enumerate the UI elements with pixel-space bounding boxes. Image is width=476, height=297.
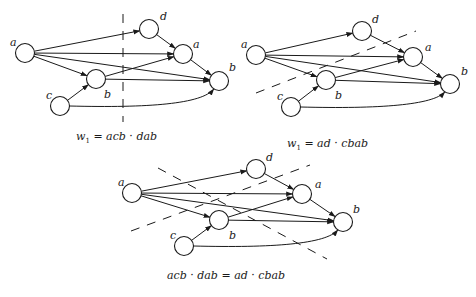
edge-c1-to-b2: [194, 230, 338, 246]
caption-left: w1 = acb · dab: [76, 130, 157, 145]
diagram-left-acb-dab: abcdab: [10, 10, 236, 122]
edge-a1-to-a2: [34, 53, 173, 54]
node-label-c1: c: [46, 89, 52, 102]
node-a1: [247, 46, 266, 65]
cut-line-1: [256, 31, 416, 93]
caption-right: w1 = ad · cbab: [287, 137, 368, 152]
edge-a2-to-b2: [421, 63, 443, 79]
node-label-b2: b: [461, 65, 468, 78]
edge-b1-to-b2: [105, 79, 209, 81]
node-label-b1: b: [104, 88, 111, 101]
edge-a1-to-d1: [265, 33, 352, 53]
node-label-c1: c: [170, 229, 176, 242]
node-label-d1: d: [372, 13, 379, 26]
node-label-b1: b: [335, 89, 342, 102]
node-b2: [441, 75, 460, 94]
edge-a1-to-d1: [141, 171, 246, 191]
node-d1: [140, 20, 159, 39]
edge-a2-to-b2: [191, 60, 212, 76]
node-label-a2: a: [315, 178, 322, 191]
edge-c1-to-b1: [68, 85, 89, 101]
node-label-a2: a: [193, 38, 200, 51]
node-label-a1: a: [118, 176, 125, 189]
node-d1: [353, 22, 372, 41]
edge-a1-to-d1: [34, 31, 139, 51]
node-label-b2: b: [353, 203, 360, 216]
diagram-bottom-equivalence: abcdab: [118, 151, 360, 259]
node-c1: [282, 98, 301, 117]
node-b1: [210, 211, 229, 230]
edge-a2-to-b2: [310, 199, 335, 216]
edge-b1-to-b2: [335, 80, 440, 83]
edge-b1-to-b2: [228, 220, 333, 222]
edge-a1-to-a2: [141, 193, 292, 194]
node-label-d1: d: [160, 10, 167, 23]
node-label-b1: b: [229, 229, 236, 242]
node-label-a1: a: [241, 38, 248, 51]
node-d1: [247, 160, 266, 179]
node-c1: [51, 97, 70, 116]
node-label-a1: a: [10, 36, 17, 49]
edge-c1-to-b1: [192, 226, 212, 241]
edge-a1-to-b1: [265, 58, 317, 77]
edge-a1-to-b1: [34, 56, 87, 75]
caption-bottom: acb · dab = ad · cbab: [167, 269, 285, 282]
node-label-b2: b: [229, 61, 236, 74]
node-label-c1: c: [277, 90, 283, 103]
edge-a1-to-a2: [265, 55, 403, 57]
node-label-d1: d: [266, 151, 273, 164]
node-b1: [87, 70, 106, 89]
diagram-right-ad-cbab: abcdab: [241, 13, 468, 117]
node-c1: [175, 237, 194, 256]
dependency-graph-figure: abcdab abcdab abcdab w1 = acb · dab w1 =…: [0, 0, 476, 297]
node-b1: [317, 71, 336, 90]
node-b2: [210, 72, 229, 91]
node-label-a2: a: [425, 41, 432, 54]
node-b2: [334, 213, 353, 232]
edge-c1-to-b2: [301, 92, 445, 107]
node-a1: [123, 184, 142, 203]
node-a2: [404, 48, 423, 67]
node-a1: [16, 44, 35, 63]
edge-c1-to-b1: [299, 86, 319, 101]
node-a2: [174, 45, 193, 64]
edge-d1-to-a2: [157, 35, 176, 49]
edge-c1-to-b2: [70, 89, 214, 106]
node-a2: [293, 185, 312, 204]
